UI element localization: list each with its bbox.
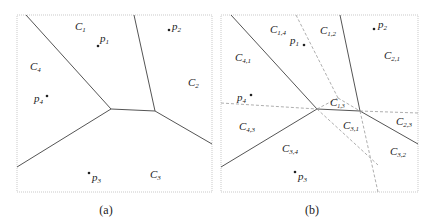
- svg-text:C2,1: C2,1: [384, 49, 400, 63]
- svg-text:C3: C3: [150, 168, 161, 182]
- frame-b: [221, 15, 418, 192]
- svg-text:C1,3: C1,3: [330, 96, 345, 109]
- svg-text:C3,2: C3,2: [390, 145, 407, 159]
- sites-a: [46, 29, 171, 175]
- svg-text:p2: p2: [377, 18, 388, 32]
- svg-text:p3: p3: [91, 171, 102, 185]
- frame-a: [17, 15, 212, 192]
- voronoi-edges-b: [221, 15, 418, 167]
- svg-text:p4: p4: [33, 92, 44, 106]
- svg-text:C4,3: C4,3: [239, 120, 256, 134]
- svg-text:C2,3: C2,3: [396, 115, 413, 129]
- svg-text:C4: C4: [30, 60, 41, 74]
- bisectors-b: [221, 15, 418, 192]
- panel-a: p1 p2 p3 p4 C1 C2 C3 C4 (a): [17, 15, 212, 217]
- svg-text:C1: C1: [75, 20, 86, 34]
- svg-text:p1: p1: [99, 32, 109, 46]
- svg-text:C1,2: C1,2: [320, 24, 337, 38]
- svg-text:p3: p3: [297, 170, 308, 184]
- panel-b: p1 p2 p3 p4 C1,4 C1,2 C2,1 C4,1 C1,3 C3,…: [221, 15, 418, 217]
- svg-text:C1,4: C1,4: [270, 23, 287, 37]
- caption-b: (b): [305, 203, 319, 217]
- voronoi-figure: p1 p2 p3 p4 C1 C2 C3 C4 (a): [0, 0, 431, 221]
- svg-text:C4,1: C4,1: [235, 51, 251, 65]
- caption-a: (a): [99, 203, 112, 217]
- svg-text:C3,4: C3,4: [282, 142, 299, 156]
- voronoi-edges-a: [17, 15, 212, 167]
- svg-text:p4: p4: [236, 91, 247, 105]
- svg-text:p2: p2: [171, 20, 182, 34]
- sites-b: [250, 28, 376, 174]
- svg-text:p1: p1: [289, 34, 299, 48]
- svg-text:C3,1: C3,1: [343, 119, 359, 133]
- svg-text:C2: C2: [188, 76, 199, 90]
